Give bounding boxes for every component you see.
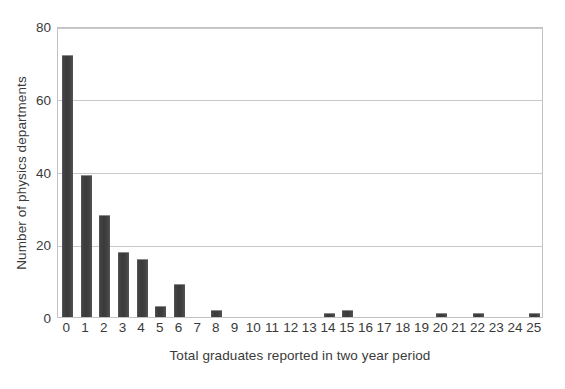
plot-area [57,27,543,318]
x-axis-tick-label: 19 [414,320,429,335]
x-axis-tick-label: 2 [100,320,108,335]
bar-chart: Number of physics departments 020406080 … [0,0,565,389]
x-axis-tick-labels: 0123456789101112131415161718192021222324… [57,320,543,340]
bar [155,306,166,317]
bar [62,55,73,317]
x-axis-tick-label: 16 [358,320,373,335]
x-axis-tick-label: 25 [526,320,541,335]
bar [324,313,335,317]
x-axis-tick-label: 20 [433,320,448,335]
bar [81,175,92,317]
x-axis-tick-label: 17 [377,320,392,335]
x-axis-tick-label: 7 [193,320,201,335]
bar [436,313,447,317]
x-axis-tick-label: 0 [63,320,71,335]
x-axis-tick-label: 12 [283,320,298,335]
x-axis-tick-label: 11 [265,320,279,335]
x-axis-tick-label: 6 [175,320,183,335]
y-axis-tick-label: 60 [0,92,57,107]
bar [174,284,185,317]
bar [342,310,353,317]
x-axis-tick-label: 22 [470,320,485,335]
x-axis-title: Total graduates reported in two year per… [57,348,543,363]
x-axis-tick-label: 10 [246,320,261,335]
bars-group [58,28,542,317]
bar [137,259,148,317]
x-axis-tick-label: 15 [339,320,354,335]
bar [118,252,129,317]
x-axis-tick-label: 3 [119,320,127,335]
x-axis-tick-label: 24 [507,320,522,335]
y-axis-tick-label: 40 [0,165,57,180]
x-axis-tick-label: 1 [81,320,89,335]
y-axis-tick-label: 80 [0,20,57,35]
bar [529,313,540,317]
y-axis-tick-label: 0 [0,311,57,326]
x-axis-tick-label: 8 [212,320,220,335]
bar [473,313,484,317]
x-axis-tick-label: 18 [395,320,410,335]
x-axis-tick-label: 14 [321,320,336,335]
y-axis-tick-label: 20 [0,238,57,253]
x-axis-tick-label: 5 [156,320,164,335]
bar [211,310,222,317]
y-axis-tick-labels: 020406080 [0,0,57,389]
bar [99,215,110,317]
x-axis-tick-label: 21 [451,320,466,335]
x-axis-tick-label: 13 [302,320,317,335]
x-axis-tick-label: 9 [231,320,239,335]
x-axis-tick-label: 23 [489,320,504,335]
x-axis-tick-label: 4 [137,320,145,335]
